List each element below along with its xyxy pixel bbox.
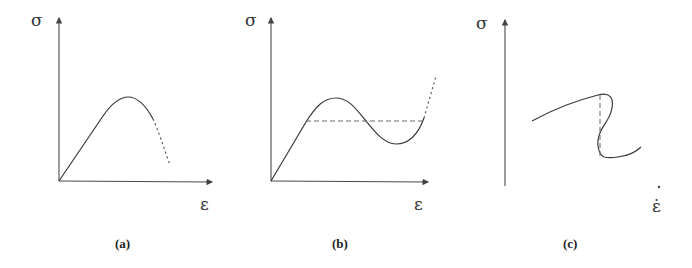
x-axis (271, 181, 428, 182)
x-axis (59, 181, 212, 182)
x-axis-label: ε (414, 194, 423, 214)
stress-strain-curve (271, 98, 424, 181)
y-axis-label: σ (245, 10, 257, 30)
x-axis-dot (658, 186, 660, 188)
panel-b: σ ε (b) (245, 10, 436, 251)
upper-branch (424, 76, 436, 118)
x-axis-label: ε (200, 194, 209, 214)
softening-branch (153, 119, 170, 165)
y-axis-label: σ (31, 10, 43, 30)
figure: σ ε (a) σ ε (b) σ ε̇ (c) (0, 0, 692, 268)
stress-strain-curve (59, 97, 153, 181)
x-axis-label: ε̇ (652, 196, 661, 216)
panel-a: σ ε (a) (31, 10, 212, 251)
panel-caption: (b) (332, 236, 348, 251)
panel-caption: (a) (115, 236, 130, 251)
s-shaped-curve (532, 94, 641, 158)
panel-caption: (c) (563, 236, 577, 251)
panel-c: σ ε̇ (c) (476, 13, 661, 251)
y-axis-label: σ (476, 13, 488, 33)
